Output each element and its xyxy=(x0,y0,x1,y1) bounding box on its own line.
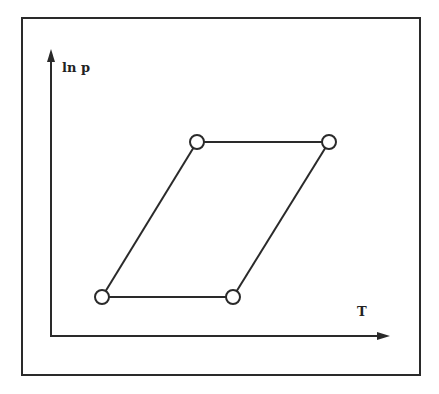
state-point-bottom-right xyxy=(226,290,240,304)
state-point-top-right xyxy=(322,135,336,149)
cycle-parallelogram xyxy=(95,135,336,304)
state-point-top-left xyxy=(190,135,204,149)
y-axis-label: ln p xyxy=(62,60,90,75)
cycle-edge xyxy=(233,142,329,297)
cycle-edge xyxy=(102,142,197,297)
x-axis-label: T xyxy=(357,304,367,319)
state-point-bottom-left xyxy=(95,290,109,304)
x-axis-arrow-icon xyxy=(377,332,390,340)
y-axis-arrow-icon xyxy=(47,49,55,62)
